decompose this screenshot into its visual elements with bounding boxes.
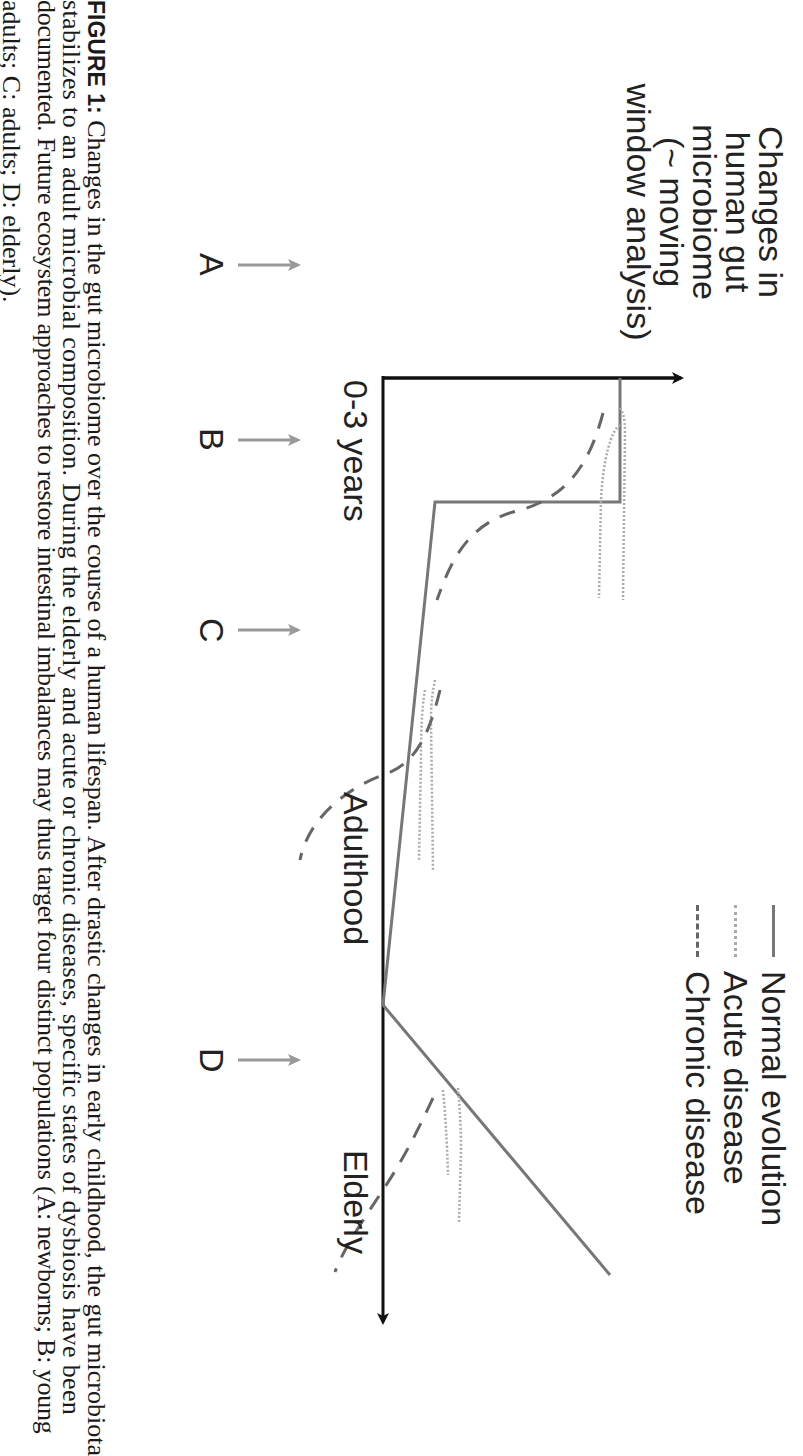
- figure-label: FIGURE 1:: [83, 0, 109, 114]
- population-label-a: A: [192, 253, 231, 276]
- x-tick-adulthood: Adulthood: [336, 792, 375, 945]
- dashed-line-swatch-icon: [697, 905, 700, 957]
- x-tick-elderly: Elderly: [336, 1150, 375, 1254]
- solid-line-swatch-icon: [773, 905, 776, 957]
- population-label-b: B: [192, 428, 231, 451]
- x-tick-0-3-years: 0-3 years: [336, 380, 375, 522]
- population-label-d: D: [192, 1048, 231, 1073]
- population-label-c: C: [192, 618, 231, 643]
- legend-label: Chronic disease: [679, 971, 718, 1215]
- legend-label: Acute disease: [717, 971, 756, 1185]
- legend-item-chronic: Chronic disease: [679, 905, 717, 1226]
- legend-item-acute: Acute disease: [717, 905, 755, 1226]
- caption-line-2: stabilizes to an adult microbial composi…: [59, 0, 84, 1358]
- legend: Normal evolution Acute disease Chronic d…: [679, 905, 793, 1226]
- caption-line-4: adults; C: adults; D: elderly).: [0, 0, 24, 1358]
- legend-label: Normal evolution: [755, 971, 794, 1226]
- caption-line-1: FIGURE 1: Changes in the gut microbiome …: [84, 0, 109, 1358]
- dotted-line-swatch-icon: [735, 905, 738, 957]
- acute-disease-spikes: [419, 408, 625, 1222]
- caption-line-3: documented. Future ecosystem approaches …: [34, 0, 59, 1358]
- figure-caption: FIGURE 1: Changes in the gut microbiome …: [34, 0, 109, 1358]
- caption-text: Changes in the gut microbiome over the c…: [82, 114, 111, 1456]
- caption-line-4-clipped: adults; C: adults; D: elderly).: [0, 0, 24, 1358]
- legend-item-normal: Normal evolution: [755, 905, 793, 1226]
